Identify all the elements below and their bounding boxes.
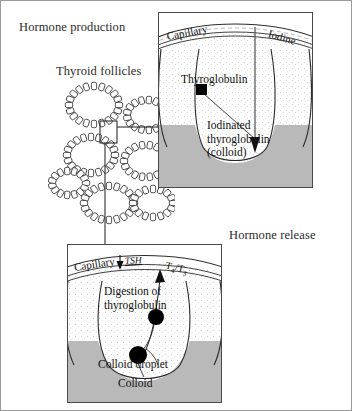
thyroid-follicle-cluster (47, 79, 175, 239)
digestion-line-1: Digestion of (104, 285, 161, 297)
iodinated-line-1: Iodinated (207, 119, 250, 131)
iodinated-line-2: thyroglobulin (207, 133, 270, 145)
label-tsh: TSH (124, 255, 141, 266)
panel-hormone-production: Capillary Iodine Thyroglobulin Iodinated… (158, 12, 313, 188)
panel-hormone-release: Capillary TSH T4/T3 Digestion of thyrogl… (67, 244, 222, 403)
label-colloid: Colloid (118, 377, 153, 389)
caption-hormone-production: Hormone production (19, 20, 125, 35)
iodinated-line-3: (colloid) (207, 146, 247, 158)
label-iodinated-thyroglobulin-colloid: Iodinated thyroglobulin (colloid) (207, 119, 299, 160)
thyroid-hormone-figure: Hormone production Thyroid follicles Hor… (0, 0, 352, 411)
label-colloid-droplet: Colloid droplet (98, 358, 168, 370)
thyroglobulin-marker (196, 84, 207, 95)
caption-thyroid-follicles: Thyroid follicles (56, 64, 141, 79)
label-digestion-of-thyroglobulin: Digestion of thyroglobulin (104, 285, 190, 312)
digestion-line-2: thyroglobulin (104, 299, 167, 311)
caption-hormone-release: Hormone release (229, 228, 316, 243)
label-thyroglobulin: Thyroglobulin (181, 73, 247, 85)
